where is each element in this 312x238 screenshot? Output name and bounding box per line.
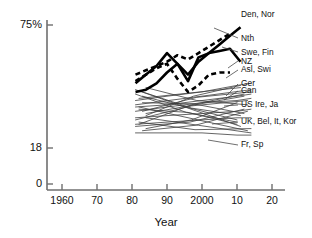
chart-figure: 75% 18 0 1960 70 80 90 2000 10 20 Year bbox=[0, 0, 312, 238]
x-axis-title: Year bbox=[154, 216, 177, 228]
series-label-fr-sp: Fr, Sp bbox=[241, 139, 264, 149]
series-label-den-nor: Den, Nor bbox=[241, 9, 275, 19]
leader-frsp bbox=[208, 140, 238, 145]
x-tick-label-2000: 2000 bbox=[190, 194, 214, 206]
series-label-nth: Nth bbox=[241, 33, 254, 43]
y-tick-labels: 75% 18 0 bbox=[20, 18, 42, 189]
leader-nz bbox=[228, 61, 238, 68]
series-label-asl-swi: Asl, Swi bbox=[241, 64, 271, 74]
series-line-fr-sp bbox=[136, 133, 252, 135]
series-label-uk-bel-it-kor: UK, Bel, It, Kor bbox=[241, 116, 297, 126]
y-tick-label-75: 75% bbox=[20, 18, 42, 30]
x-tick-label-1970: 70 bbox=[91, 194, 103, 206]
line-chart-svg: 75% 18 0 1960 70 80 90 2000 10 20 Year bbox=[0, 0, 312, 238]
x-tick-label-1960: 1960 bbox=[50, 194, 74, 206]
series-line-swe-fin bbox=[136, 49, 241, 84]
y-tick-label-18: 18 bbox=[30, 141, 42, 153]
y-tick-label-0: 0 bbox=[36, 177, 42, 189]
leader-ger bbox=[226, 84, 238, 96]
emphasis-series-group bbox=[136, 27, 241, 92]
x-tick-label-1980: 80 bbox=[126, 194, 138, 206]
x-tick-labels: 1960 70 80 90 2000 10 20 bbox=[50, 194, 278, 206]
series-labels-group: Den, Nor Nth Swe, Fin NZ Asl, Swi Ger Ca… bbox=[241, 9, 297, 149]
leader-usireja bbox=[224, 105, 238, 106]
x-tick-label-2010: 10 bbox=[231, 194, 243, 206]
x-tick-label-2020: 20 bbox=[266, 194, 278, 206]
x-tick-label-1990: 90 bbox=[161, 194, 173, 206]
leader-aslswi bbox=[226, 70, 238, 78]
series-label-can: Can bbox=[241, 85, 257, 95]
series-label-us-ire-ja: US Ire, Ja bbox=[241, 99, 279, 109]
